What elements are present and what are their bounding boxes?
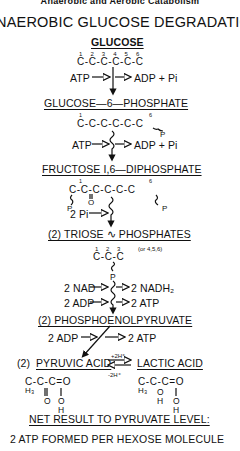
pathway-arrows: [0, 0, 240, 451]
